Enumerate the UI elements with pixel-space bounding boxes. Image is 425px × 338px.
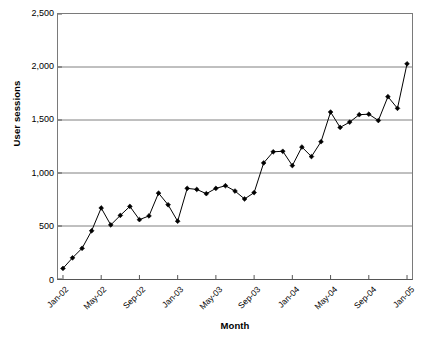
- y-tick-label: 500: [18, 222, 54, 231]
- data-point-marker: [175, 219, 180, 224]
- data-series-user-sessions: [58, 14, 412, 279]
- data-point-marker: [89, 228, 94, 233]
- x-tick-label: Jan-04: [269, 285, 301, 317]
- x-tick-label: May-02: [77, 285, 109, 317]
- x-tick-label: May-03: [192, 285, 224, 317]
- data-point-marker: [213, 186, 218, 191]
- x-tick-label: Jan-05: [385, 285, 417, 317]
- data-point-marker: [328, 110, 333, 115]
- y-tick-label: 1,500: [18, 115, 54, 124]
- data-point-marker: [99, 206, 104, 211]
- y-tick-label: 2,000: [18, 62, 54, 71]
- x-axis-title: Month: [57, 320, 413, 331]
- x-tick-label: Sep-02: [115, 285, 147, 317]
- y-tick-label: 1,000: [18, 169, 54, 178]
- plot-area: [57, 13, 413, 280]
- x-tick-label: Sep-04: [346, 285, 378, 317]
- data-point-marker: [319, 139, 324, 144]
- data-point-marker: [185, 186, 190, 191]
- data-point-marker: [338, 125, 343, 130]
- x-tick-label: May-04: [308, 285, 340, 317]
- data-point-marker: [147, 214, 152, 219]
- data-point-marker: [223, 183, 228, 188]
- y-tick-label: 0: [18, 276, 54, 285]
- x-tick-label: Sep-03: [231, 285, 263, 317]
- y-tick-label: 2,500: [18, 9, 54, 18]
- data-point-marker: [194, 187, 199, 192]
- x-tick-label: Jan-03: [154, 285, 186, 317]
- y-axis-tick-labels: 05001,0001,5002,0002,500: [16, 0, 54, 338]
- user-sessions-line-chart: User sessions 05001,0001,5002,0002,500 J…: [0, 0, 425, 338]
- series-line: [63, 64, 407, 269]
- data-point-marker: [405, 61, 410, 66]
- data-point-marker: [204, 191, 209, 196]
